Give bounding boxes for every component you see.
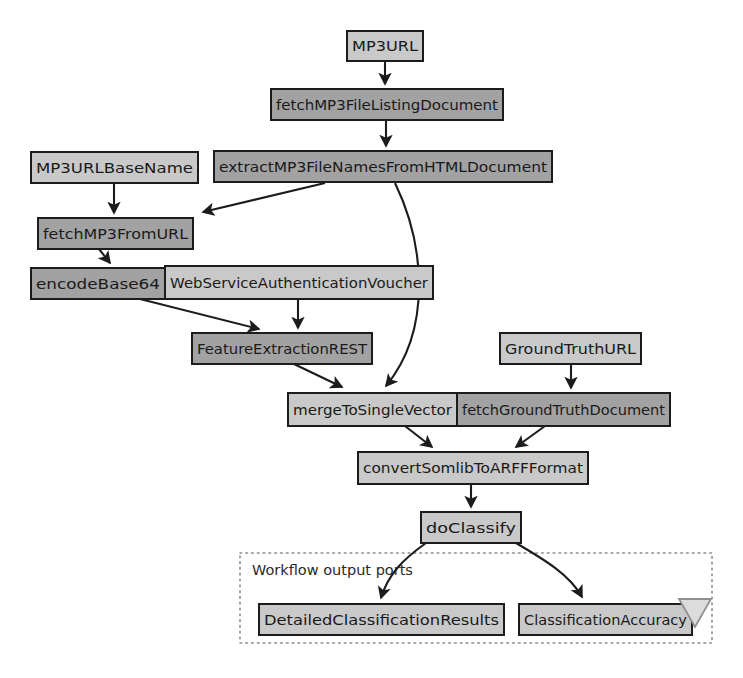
node-FeatureExtractionREST[interactable]: FeatureExtractionREST — [192, 333, 372, 364]
node-doClassify[interactable]: doClassify — [421, 512, 521, 543]
node-extractMP3FileNamesFromHTMLDocument[interactable]: extractMP3FileNamesFromHTMLDocument — [214, 151, 552, 182]
node-box[interactable] — [259, 604, 504, 635]
edge-fetchGroundTruthDocument-to-convertSomlibToARFFFormat — [516, 426, 545, 447]
node-ClassificationAccuracy[interactable]: ClassificationAccuracy — [519, 604, 692, 635]
edge-FeatureExtractionREST-to-mergeToSingleVector — [294, 364, 342, 387]
node-encodeBase64[interactable]: encodeBase64 — [31, 268, 165, 299]
node-box[interactable] — [347, 31, 423, 61]
node-box[interactable] — [421, 512, 521, 543]
node-box[interactable] — [457, 393, 670, 426]
edge-fetchMP3FromURL-to-encodeBase64 — [99, 249, 110, 263]
edge-mergeToSingleVector-to-convertSomlibToARFFFormat — [405, 426, 432, 447]
node-box[interactable] — [500, 333, 641, 364]
node-box[interactable] — [358, 452, 588, 484]
edge-extractMP3FileNamesFromHTMLDocument-to-fetchMP3FromURL — [203, 183, 325, 212]
edge-encodeBase64-to-FeatureExtractionREST — [140, 299, 259, 329]
node-box[interactable] — [519, 604, 692, 635]
node-box[interactable] — [165, 266, 433, 299]
node-mp3urlbasename[interactable]: MP3URLBaseName — [31, 152, 198, 183]
node-box[interactable] — [214, 151, 552, 182]
node-mp3url[interactable]: MP3URL — [347, 31, 423, 61]
node-box[interactable] — [192, 333, 372, 364]
edge-doClassify-to-ClassificationAccuracy — [516, 543, 582, 597]
node-box[interactable] — [31, 152, 198, 183]
workflow-diagram-canvas: Workflow output ports MP3URLfetchMP3File… — [0, 0, 743, 678]
node-fetchMP3FromURL[interactable]: fetchMP3FromURL — [38, 218, 193, 249]
node-box[interactable] — [38, 218, 193, 249]
node-fetchGroundTruthDocument[interactable]: fetchGroundTruthDocument — [457, 393, 670, 426]
node-layer: MP3URLfetchMP3FileListingDocumentMP3URLB… — [31, 31, 692, 635]
node-mergeToSingleVector[interactable]: mergeToSingleVector — [288, 393, 457, 426]
node-box[interactable] — [288, 393, 457, 426]
workflow-output-ports-label: Workflow output ports — [252, 562, 413, 578]
node-GroundTruthURL[interactable]: GroundTruthURL — [500, 333, 641, 364]
node-fetchMP3FileListingDocument[interactable]: fetchMP3FileListingDocument — [271, 89, 503, 120]
node-DetailedClassificationResults[interactable]: DetailedClassificationResults — [259, 604, 504, 635]
node-box[interactable] — [271, 89, 503, 120]
node-box[interactable] — [31, 268, 165, 299]
node-convertSomlibToARFFFormat[interactable]: convertSomlibToARFFFormat — [358, 452, 588, 484]
node-WebServiceAuthenticationVoucher[interactable]: WebServiceAuthenticationVoucher — [165, 266, 433, 299]
